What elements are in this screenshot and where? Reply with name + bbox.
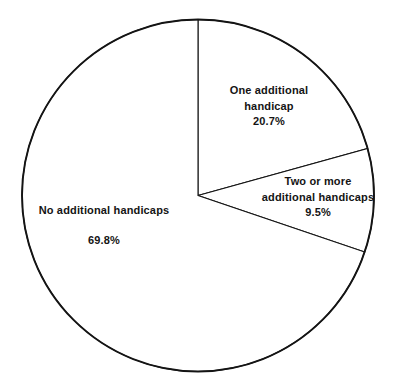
pie-label-line-1: No additional handicaps	[22, 203, 186, 219]
pie-label-line-1: One additional	[207, 83, 331, 99]
pie-label-value: 69.8%	[22, 233, 186, 249]
pie-label-no-additional-handicaps: No additional handicaps 69.8%	[22, 203, 186, 248]
pie-label-value: 20.7%	[207, 114, 331, 130]
pie-label-line-2: additional handicaps	[251, 190, 385, 206]
pie-label-line-2: handicap	[207, 99, 331, 115]
pie-label-line-1: Two or more	[251, 174, 385, 190]
pie-chart: One additional handicap 20.7% Two or mor…	[0, 0, 393, 385]
pie-label-two-or-more-additional-handicaps: Two or more additional handicaps 9.5%	[251, 174, 385, 221]
pie-label-one-additional-handicap: One additional handicap 20.7%	[207, 83, 331, 130]
pie-label-value: 9.5%	[251, 205, 385, 221]
